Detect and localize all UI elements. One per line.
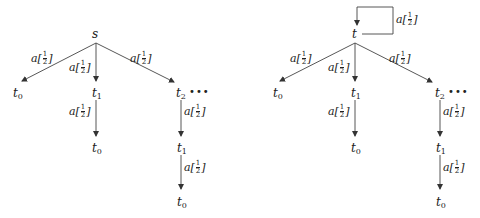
node-t2-t1-t0: t0 xyxy=(177,196,187,210)
edge-label: a[12] xyxy=(443,104,465,119)
edge-label: a[12] xyxy=(31,51,53,66)
node-t1: t1 xyxy=(92,87,102,101)
edge-label: a[12] xyxy=(443,160,465,175)
edge-label: a[12] xyxy=(328,60,350,75)
edge-label: a[12] xyxy=(184,160,206,175)
node-t2: t2 xyxy=(176,87,186,101)
node-t0: t0 xyxy=(273,87,283,101)
self-loop-t xyxy=(357,7,393,34)
node-t2-t1-t0: t0 xyxy=(436,196,446,210)
node-t2-t1: t1 xyxy=(177,142,187,156)
node-t2-t1: t1 xyxy=(436,142,446,156)
node-t2: t2 xyxy=(435,87,445,101)
edge-label: a[12] xyxy=(69,60,91,75)
node-t: t xyxy=(352,28,357,40)
node-t1-t0: t0 xyxy=(351,142,361,156)
ellipsis-dots: ••• xyxy=(448,86,469,97)
node-t1: t1 xyxy=(351,87,361,101)
ellipsis-dots: ••• xyxy=(189,86,210,97)
edge-label: a[12] xyxy=(290,51,312,66)
self-loop-label: a[12] xyxy=(396,12,418,27)
edge-label: a[12] xyxy=(184,104,206,119)
diagram-canvas: s t0 t1 t2 ••• t0 t1 t0 a[12] a[12] a[12… xyxy=(0,0,480,218)
edge-label: a[12] xyxy=(389,51,411,66)
edge-label: a[12] xyxy=(130,51,152,66)
node-t1-t0: t0 xyxy=(92,142,102,156)
edge-label: a[12] xyxy=(328,104,350,119)
node-t0: t0 xyxy=(13,87,23,101)
edge-label: a[12] xyxy=(69,104,91,119)
node-s: s xyxy=(92,28,98,40)
